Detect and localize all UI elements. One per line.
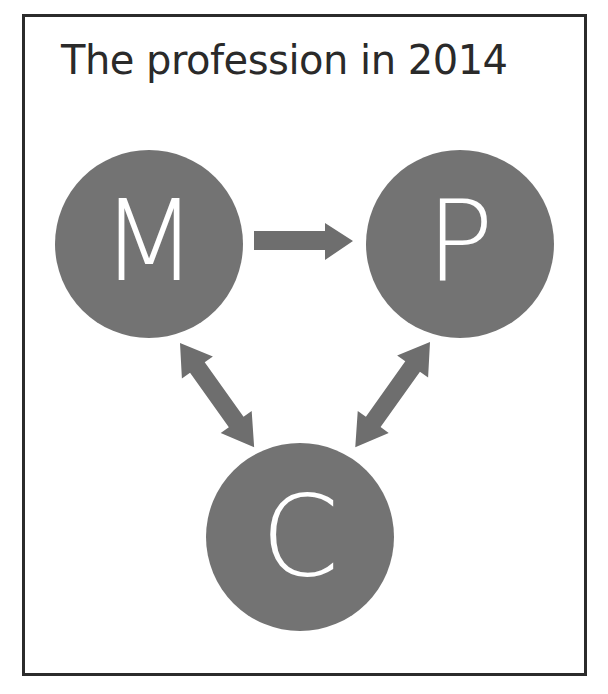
arrow-m-c-double-icon bbox=[165, 332, 270, 458]
node-m: M bbox=[55, 150, 243, 338]
node-c-label: C bbox=[261, 471, 339, 601]
arrow-m-to-p-icon bbox=[254, 223, 353, 260]
relationship-diagram: M P C bbox=[0, 0, 608, 694]
arrow-p-c-double-icon bbox=[340, 331, 446, 458]
node-p: P bbox=[366, 150, 554, 338]
node-p-label: P bbox=[426, 176, 494, 306]
node-m-label: M bbox=[101, 176, 198, 306]
node-c: C bbox=[206, 443, 394, 631]
